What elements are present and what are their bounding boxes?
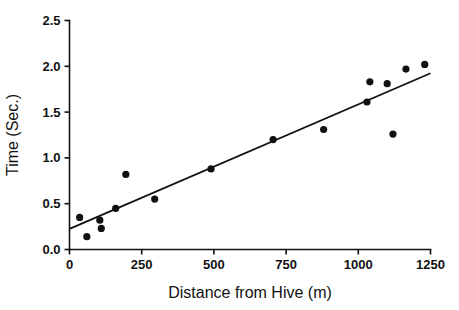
y-axis-title: Time (Sec.) [4, 94, 21, 176]
x-axis-tick-labels: 025050075010001250 [66, 257, 445, 272]
data-point [270, 136, 277, 143]
data-point [112, 205, 119, 212]
x-tick-label: 750 [275, 257, 297, 272]
data-point [96, 217, 103, 224]
data-point [384, 80, 391, 87]
y-tick-label: 0.5 [42, 196, 60, 211]
y-tick-label: 1.5 [42, 105, 60, 120]
x-tick-label: 1250 [416, 257, 445, 272]
regression-trendline [70, 73, 431, 229]
y-axis-tick-labels: 0.00.51.01.52.02.5 [42, 13, 60, 257]
x-tick-label: 0 [66, 257, 73, 272]
chart-svg: 025050075010001250 0.00.51.01.52.02.5 Di… [0, 0, 459, 310]
data-point [207, 165, 214, 172]
x-axis-title: Distance from Hive (m) [168, 284, 332, 301]
y-tick-label: 0.0 [42, 242, 60, 257]
x-tick-label: 500 [203, 257, 225, 272]
x-tick-label: 250 [131, 257, 153, 272]
data-point [76, 214, 83, 221]
y-tick-label: 1.0 [42, 150, 60, 165]
data-point [421, 61, 428, 68]
data-point [366, 78, 373, 85]
data-point [98, 225, 105, 232]
data-point [363, 98, 370, 105]
data-point [389, 130, 396, 137]
y-tick-label: 2.5 [42, 13, 60, 28]
data-point [151, 196, 158, 203]
y-tick-label: 2.0 [42, 59, 60, 74]
data-point [320, 126, 327, 133]
data-point [122, 171, 129, 178]
data-point [402, 65, 409, 72]
data-point [83, 233, 90, 240]
x-tick-label: 1000 [344, 257, 373, 272]
scatter-plot-figure: 025050075010001250 0.00.51.01.52.02.5 Di… [0, 0, 459, 310]
